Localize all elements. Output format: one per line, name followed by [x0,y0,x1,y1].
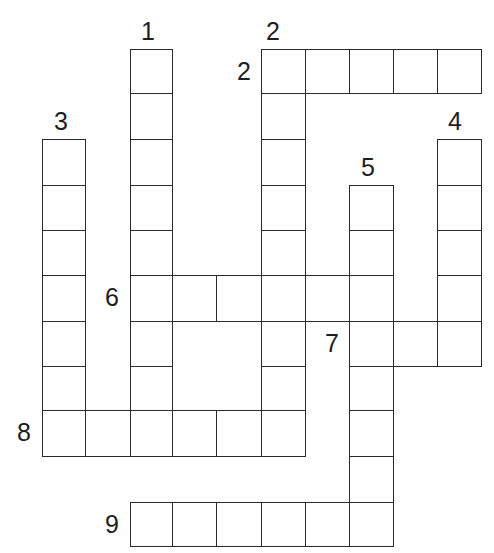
crossword-cell[interactable] [261,366,306,411]
crossword-cell[interactable] [305,275,350,322]
crossword-cell[interactable] [349,230,394,276]
crossword-cell[interactable] [130,230,173,276]
crossword-cell[interactable] [130,366,173,411]
crossword-cell[interactable] [437,230,482,276]
clue-number-8-across: 8 [17,420,31,445]
clue-number-6-across: 6 [105,285,119,310]
crossword-cell[interactable] [172,410,217,457]
crossword-cell[interactable] [130,185,173,231]
clue-number-2-across: 2 [237,59,251,84]
crossword-cell[interactable] [172,502,217,547]
crossword-grid: 1 2 2 3 4 5 6 7 8 9 [0,0,494,553]
clue-number-5-down: 5 [361,155,375,180]
clue-number-3-down: 3 [54,109,68,134]
crossword-cell[interactable] [42,410,86,457]
clue-number-7-across: 7 [325,331,339,356]
crossword-cell[interactable] [130,139,173,186]
crossword-cell[interactable] [261,321,306,367]
crossword-cell[interactable] [85,410,131,457]
crossword-cell[interactable] [261,502,306,547]
crossword-cell[interactable] [349,185,394,231]
crossword-cell[interactable] [261,230,306,276]
crossword-cell[interactable] [261,49,306,94]
crossword-cell[interactable] [261,185,306,231]
crossword-cell[interactable] [437,275,482,322]
clue-number-4-down: 4 [448,109,462,134]
crossword-cell[interactable] [393,321,438,367]
crossword-cell[interactable] [261,275,306,322]
crossword-cell[interactable] [261,93,306,140]
clue-number-2-down: 2 [266,19,280,44]
crossword-cell[interactable] [42,275,86,322]
crossword-cell[interactable] [349,366,394,411]
crossword-cell[interactable] [349,275,394,322]
crossword-cell[interactable] [261,139,306,186]
crossword-cell[interactable] [172,275,217,322]
crossword-cell[interactable] [437,321,482,367]
crossword-cell[interactable] [305,502,350,547]
crossword-cell[interactable] [305,49,350,94]
crossword-cell[interactable] [216,275,262,322]
crossword-cell[interactable] [42,230,86,276]
crossword-cell[interactable] [261,410,306,457]
crossword-cell[interactable] [437,139,482,186]
crossword-cell[interactable] [437,49,482,94]
crossword-cell[interactable] [42,321,86,367]
crossword-cell[interactable] [349,321,394,367]
clue-number-9-across: 9 [105,512,119,537]
crossword-cell[interactable] [216,502,262,547]
crossword-cell[interactable] [130,93,173,140]
crossword-cell[interactable] [130,275,173,322]
crossword-cell[interactable] [349,502,394,547]
crossword-cell[interactable] [349,456,394,503]
crossword-cell[interactable] [130,502,173,547]
crossword-cell[interactable] [42,366,86,411]
crossword-cell[interactable] [42,139,86,186]
crossword-cell[interactable] [130,321,173,367]
crossword-cell[interactable] [130,410,173,457]
crossword-cell[interactable] [437,185,482,231]
crossword-cell[interactable] [216,410,262,457]
crossword-cell[interactable] [393,49,438,94]
clue-number-1-down: 1 [141,19,155,44]
crossword-cell[interactable] [42,185,86,231]
crossword-cell[interactable] [130,49,173,94]
crossword-cell[interactable] [349,49,394,94]
crossword-cell[interactable] [349,410,394,457]
